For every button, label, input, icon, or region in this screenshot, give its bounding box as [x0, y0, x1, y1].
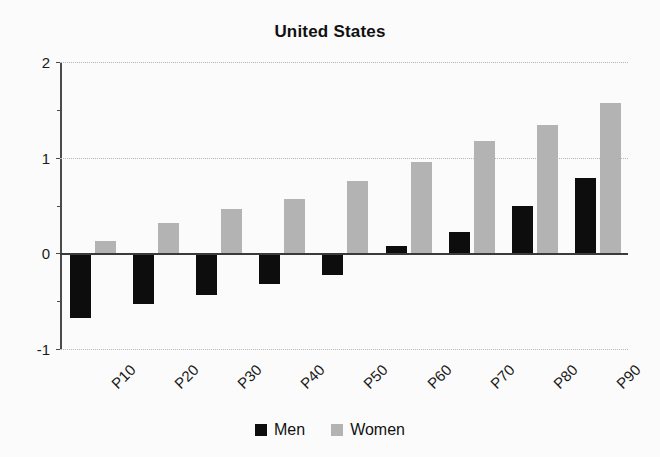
- y-axis-labels: 210-1: [0, 62, 60, 349]
- bar-women-p80[interactable]: [537, 125, 558, 253]
- legend-label-women: Women: [350, 421, 405, 439]
- x-axis-tick-label-p30: P30: [234, 361, 265, 392]
- bar-women-p60[interactable]: [411, 162, 432, 253]
- legend-label-men: Men: [274, 421, 305, 439]
- bar-men-p50[interactable]: [322, 253, 343, 275]
- bar-group: [186, 62, 249, 349]
- bar-women-p50[interactable]: [347, 181, 368, 254]
- bar-women-p40[interactable]: [284, 199, 305, 254]
- bar-women-p30[interactable]: [221, 209, 242, 253]
- legend-item-men[interactable]: Men: [255, 421, 305, 439]
- legend-swatch-women-icon: [331, 424, 343, 436]
- bar-group: [123, 62, 186, 349]
- x-axis-tick-label-p10: P10: [108, 361, 139, 392]
- bar-men-p80[interactable]: [512, 206, 533, 254]
- bar-group: [565, 62, 628, 349]
- chart-container: United States 210-1 P10P20P30P40P50P60P7…: [0, 0, 660, 457]
- x-axis-tick-label-p90: P90: [613, 361, 644, 392]
- x-axis-tick-label-p60: P60: [423, 361, 454, 392]
- bar-men-p70[interactable]: [449, 232, 470, 253]
- y-axis-tick-label: -1: [37, 341, 50, 358]
- chart-legend: Men Women: [0, 421, 660, 439]
- bar-women-p10[interactable]: [95, 241, 116, 253]
- x-axis-labels: P10P20P30P40P50P60P70P80P90: [60, 349, 628, 419]
- x-axis-tick-label-p70: P70: [486, 361, 517, 392]
- bar-women-p90[interactable]: [600, 103, 621, 253]
- bar-women-p20[interactable]: [158, 223, 179, 254]
- bar-men-p40[interactable]: [259, 253, 280, 284]
- legend-item-women[interactable]: Women: [331, 421, 405, 439]
- bar-group: [376, 62, 439, 349]
- bar-men-p20[interactable]: [133, 253, 154, 304]
- y-axis-tick-label: 1: [42, 149, 50, 166]
- bar-men-p90[interactable]: [575, 178, 596, 254]
- bar-men-p10[interactable]: [70, 253, 91, 318]
- y-axis-tick-label: 0: [42, 245, 50, 262]
- bar-group: [60, 62, 123, 349]
- bar-men-p30[interactable]: [196, 253, 217, 295]
- x-axis-tick-label-p50: P50: [360, 361, 391, 392]
- x-axis-tick-label-p80: P80: [550, 361, 581, 392]
- y-axis-tick-label: 2: [42, 54, 50, 71]
- plot-area: [60, 62, 628, 349]
- chart-title: United States: [0, 22, 660, 42]
- bar-women-p70[interactable]: [474, 141, 495, 253]
- zero-baseline: [60, 253, 628, 255]
- bar-group: [439, 62, 502, 349]
- bar-men-p60[interactable]: [386, 246, 407, 254]
- bar-group: [502, 62, 565, 349]
- legend-swatch-men-icon: [255, 424, 267, 436]
- x-axis-tick-label-p20: P20: [171, 361, 202, 392]
- bar-group: [249, 62, 312, 349]
- x-axis-tick-label-p40: P40: [297, 361, 328, 392]
- bar-group: [312, 62, 375, 349]
